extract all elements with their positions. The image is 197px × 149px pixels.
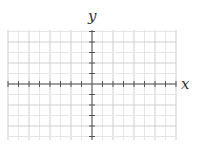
axes (8, 30, 176, 140)
y-axis-label: y (87, 7, 97, 25)
coordinate-plane: y x (0, 0, 197, 149)
x-axis-label: x (181, 75, 190, 93)
